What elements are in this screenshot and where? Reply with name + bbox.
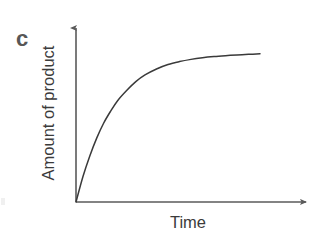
plot-area	[0, 0, 329, 245]
figure-panel-c: c Amount of product Time	[0, 0, 329, 245]
product-curve	[76, 54, 260, 202]
